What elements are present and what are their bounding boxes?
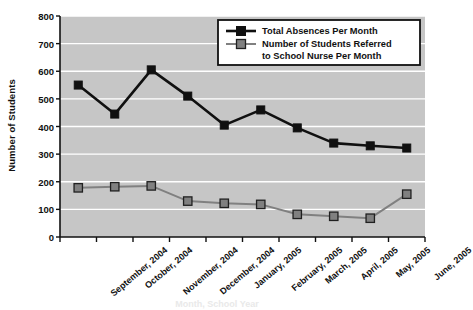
legend-entry-label: Number of Students Referred — [262, 39, 392, 49]
x-tick-label: June, 2005 — [432, 245, 473, 282]
x-axis-title: Month, School Year — [0, 299, 434, 310]
chart-legend: Total Absences Per MonthNumber of Studen… — [218, 20, 420, 65]
legend-entry-label: to School Nurse Per Month — [262, 51, 382, 61]
legend-entry-label: Total Absences Per Month — [262, 26, 378, 36]
